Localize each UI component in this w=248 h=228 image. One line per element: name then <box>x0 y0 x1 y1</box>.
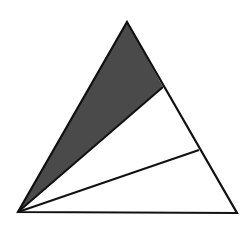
triangle-diagram <box>0 0 248 228</box>
diagram-canvas <box>0 0 248 228</box>
